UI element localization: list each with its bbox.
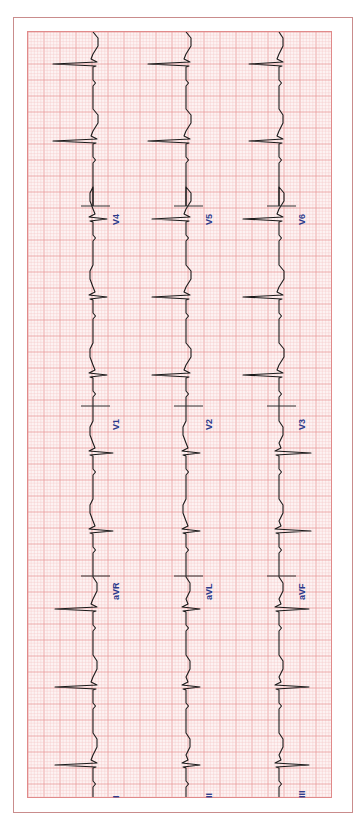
lead-label-iii: III (297, 790, 307, 798)
lead-label-ii: II (204, 793, 214, 798)
lead-label-v6: V6 (297, 214, 307, 225)
lead-label-v4: V4 (111, 214, 121, 225)
lead-label-avf: aVF (297, 583, 307, 600)
lead-label-v5: V5 (204, 214, 214, 225)
lead-label-v1: V1 (111, 419, 121, 430)
ecg-traces (28, 32, 332, 798)
lead-label-v2: V2 (204, 419, 214, 430)
lead-label-avr: aVR (111, 582, 121, 600)
lead-label-avl: aVL (204, 583, 214, 600)
lead-label-i: I (111, 795, 121, 798)
lead-label-v3: V3 (297, 419, 307, 430)
ecg-grid-paper (27, 31, 332, 798)
